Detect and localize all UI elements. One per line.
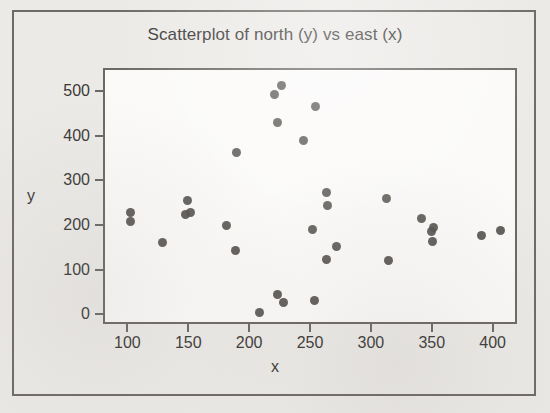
y-tick-label: 100 [63, 261, 90, 279]
scatter-point [186, 208, 195, 217]
y-tick-mark [95, 90, 103, 92]
x-tick-mark [248, 324, 250, 332]
scatter-point [273, 118, 282, 127]
scatter-point [323, 201, 332, 210]
y-tick-mark [95, 179, 103, 181]
scatter-point [429, 223, 438, 232]
y-tick-label: 500 [63, 82, 90, 100]
x-axis-title: x [0, 358, 550, 376]
scatter-point [310, 296, 319, 305]
x-tick-label: 150 [175, 334, 202, 352]
y-tick-mark [95, 313, 103, 315]
scatter-point [332, 242, 341, 251]
scatter-point [231, 246, 240, 255]
scatter-point [428, 237, 437, 246]
scatter-point [308, 225, 317, 234]
scatter-point [183, 196, 192, 205]
y-tick-label: 400 [63, 127, 90, 145]
scatter-point [279, 298, 288, 307]
scatter-point [322, 255, 331, 264]
y-tick-label: 300 [63, 171, 90, 189]
plot-area [103, 68, 517, 324]
y-tick-label: 200 [63, 216, 90, 234]
x-tick-mark [187, 324, 189, 332]
scatter-point [232, 148, 241, 157]
y-tick-mark [95, 224, 103, 226]
y-tick-mark [95, 269, 103, 271]
scatter-point [382, 194, 391, 203]
x-tick-mark [492, 324, 494, 332]
x-tick-label: 400 [479, 334, 506, 352]
scatter-point [417, 214, 426, 223]
scatter-point [311, 102, 320, 111]
scatter-point [270, 90, 279, 99]
scatter-point [299, 136, 308, 145]
x-tick-mark [126, 324, 128, 332]
scatter-point [277, 81, 286, 90]
x-tick-label: 100 [114, 334, 141, 352]
scatter-point [255, 308, 264, 317]
scatter-point [222, 221, 231, 230]
x-tick-mark [309, 324, 311, 332]
scan-page: Scatterplot of north (y) vs east (x) y x… [0, 0, 550, 413]
scatter-point [477, 231, 486, 240]
scatter-point [126, 208, 135, 217]
scatter-point [126, 217, 135, 226]
x-tick-label: 350 [418, 334, 445, 352]
x-tick-label: 200 [236, 334, 263, 352]
y-tick-mark [95, 135, 103, 137]
scatter-points-layer [105, 70, 515, 322]
x-tick-label: 250 [297, 334, 324, 352]
scatter-point [158, 238, 167, 247]
x-tick-mark [431, 324, 433, 332]
y-axis-title: y [27, 187, 35, 205]
scatter-point [496, 226, 505, 235]
chart-title: Scatterplot of north (y) vs east (x) [0, 25, 550, 45]
x-tick-mark [370, 324, 372, 332]
x-tick-label: 300 [358, 334, 385, 352]
scatter-point [322, 188, 331, 197]
scatter-point [384, 256, 393, 265]
y-tick-label: 0 [81, 305, 90, 323]
